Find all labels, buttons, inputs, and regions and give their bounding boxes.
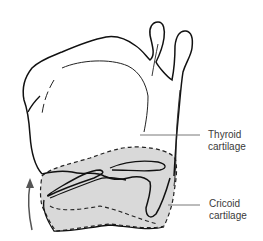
thyroid-label-line2: cartilage: [208, 141, 246, 153]
cricoid-cartilage-label: Cricoid cartilage: [209, 198, 247, 222]
rotation-arrow-shaft: [29, 184, 32, 230]
cricoid-label-line2: cartilage: [209, 210, 247, 222]
thyroid-label-line1: Thyroid: [208, 129, 246, 141]
rotation-arrow-head-icon: [26, 178, 34, 188]
cricoid-cartilage-shape: [41, 147, 177, 231]
thyroid-left-notch: [28, 96, 40, 112]
thyroid-cartilage-label: Thyroid cartilage: [208, 129, 246, 153]
thyroid-left-inner-stroke: [42, 80, 54, 114]
thyroid-inner-curve: [62, 61, 148, 132]
cricoid-label-line1: Cricoid: [209, 198, 247, 210]
